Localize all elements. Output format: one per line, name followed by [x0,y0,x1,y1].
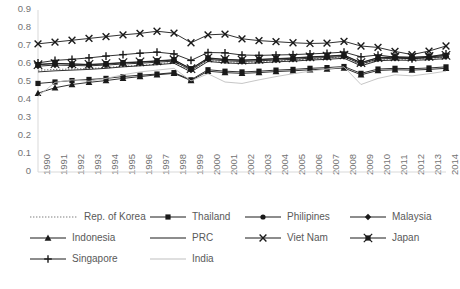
legend-key-x-icon [243,232,283,244]
legend-item-singapore[interactable]: Singapore [28,248,118,269]
data-point-marker [44,255,52,263]
legend-row: IndonesiaPRCViet NamJapan [28,227,446,248]
legend-item-philipines[interactable]: Philipines [243,206,330,227]
data-point-marker [188,39,195,46]
x-axis-tick-label: 2014 [450,154,460,175]
data-point-marker [136,49,144,57]
legend-item-rep-of-korea[interactable]: Rep. of Korea [28,206,146,227]
legend-row: Rep. of KoreaThailandPhilipinesMalaysia [28,206,446,227]
legend-item-prc[interactable]: PRC [148,227,213,248]
data-point-marker [187,57,195,65]
data-point-marker [365,213,371,219]
legend-key-line-icon [148,232,188,244]
data-point-marker [35,81,40,86]
legend-label: Malaysia [392,211,431,223]
legend-label: Thailand [192,211,230,223]
legend-key-square-icon [148,211,188,223]
legend-label: Viet Nam [287,232,328,244]
legend-key-square-x-icon [348,232,388,244]
legend-item-japan[interactable]: Japan [348,227,419,248]
series-line [38,31,446,54]
legend-item-viet-nam[interactable]: Viet Nam [243,227,328,248]
data-point-marker [102,52,110,60]
legend-item-india[interactable]: India [148,248,214,269]
legend-key-diamond-icon [348,211,388,223]
data-point-marker [443,43,450,50]
data-point-marker [165,214,170,219]
data-point-marker [260,214,265,219]
legend-key-line-icon [148,253,188,265]
chart-legend: Rep. of KoreaThailandPhilipinesMalaysiaI… [28,206,446,286]
legend-label: India [192,253,214,265]
legend-label: Rep. of Korea [84,211,146,223]
legend-key-circle-icon [243,211,283,223]
legend-label: Indonesia [72,232,115,244]
legend-key-plus-icon [28,253,68,265]
legend-label: Philipines [287,211,330,223]
legend-row: SingaporeIndia [28,248,446,269]
legend-item-indonesia[interactable]: Indonesia [28,227,115,248]
legend-label: Singapore [72,253,118,265]
data-point-marker [255,52,263,60]
data-point-marker [221,49,229,57]
legend-label: PRC [192,232,213,244]
data-point-marker [85,54,93,62]
legend-key-triangle-icon [28,232,68,244]
legend-item-thailand[interactable]: Thailand [148,206,230,227]
legend-label: Japan [392,232,419,244]
data-point-marker [153,48,161,56]
data-point-marker [272,51,280,59]
legend-item-malaysia[interactable]: Malaysia [348,206,431,227]
data-point-marker [119,51,127,59]
legend-key-line-icon [28,211,80,223]
data-point-marker [408,55,416,63]
